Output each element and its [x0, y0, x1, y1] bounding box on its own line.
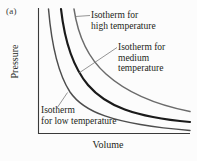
leader-line-medium	[79, 48, 117, 74]
annotation-low-temperature: Isotherm for low temperature	[41, 105, 116, 126]
annotation-high-temperature: Isotherm for high temperature	[91, 10, 156, 31]
isotherm-figure: (a) Pressure Volume Isotherm for high te…	[0, 0, 197, 161]
annotation-medium-temperature: Isotherm for medium temperature	[118, 42, 165, 74]
axis-label-pressure: Pressure	[9, 30, 20, 94]
axis-label-volume: Volume	[38, 139, 178, 151]
leader-line-high	[76, 16, 91, 17]
